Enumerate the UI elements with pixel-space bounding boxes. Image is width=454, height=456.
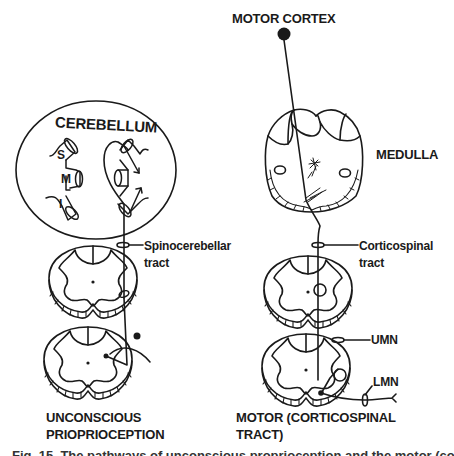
spinocerebellar-tract-label-line2: tract xyxy=(144,257,169,269)
right-upper-spinal-cord xyxy=(264,256,352,328)
left-lower-spinal-cord xyxy=(44,327,132,399)
medulla-label: MEDULLA xyxy=(376,148,438,161)
corticospinal-tract-label-line1: Corticospinal xyxy=(359,240,433,252)
left-panel-title-line1: UNCONSCIOUS xyxy=(46,411,141,424)
lateral-corticospinal-tract-upper xyxy=(314,284,326,296)
lmn-label: LMN xyxy=(373,376,398,388)
umn-label: UMN xyxy=(371,334,398,346)
motor-cortex-label: MOTOR CORTEX xyxy=(232,12,336,25)
pathway-figure: MOTOR CORTEX CEREBELLUM S M I MEDULLA Sp… xyxy=(0,0,454,456)
lobule-label-s: S xyxy=(57,149,65,161)
clarke-nucleus-cell xyxy=(104,354,109,359)
spinocerebellar-tract-label-line1: Spinocerebellar xyxy=(144,240,231,252)
left-panel-title-line2: PRIOPRIOCEPTION xyxy=(46,428,164,441)
corticospinal-tract-label-line2: tract xyxy=(359,257,384,269)
motor-cortex-cell-body xyxy=(278,28,291,41)
right-panel-title-line2: TRACT) xyxy=(236,428,283,441)
right-panel-title-line1: MOTOR (CORTICOSPINAL xyxy=(236,411,396,424)
corticospinal-fiber xyxy=(284,40,320,380)
dorsal-root-ganglion xyxy=(134,333,141,340)
spinocerebellar-tract-marker xyxy=(117,243,129,248)
lobule-label-i: I xyxy=(59,198,62,210)
lobule-label-m: M xyxy=(61,173,71,185)
medulla xyxy=(265,109,362,212)
right-folia xyxy=(115,137,149,218)
figure-caption: Fig. 15. The pathways of unconscious pro… xyxy=(12,449,454,456)
umn-to-lmn-fiber xyxy=(322,369,338,392)
